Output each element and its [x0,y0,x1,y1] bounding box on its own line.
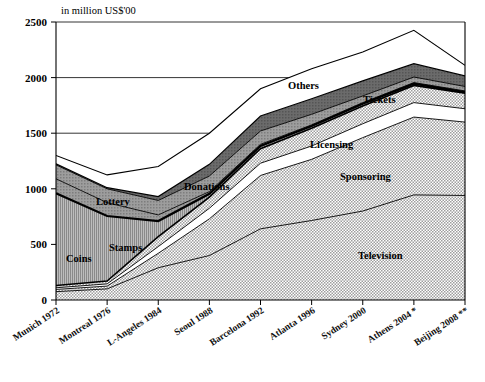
y-tick-label: 1500 [25,127,48,139]
series-label-stamps: Stamps [109,242,142,253]
series-label-television: Television [358,250,403,261]
y-tick-label: 1000 [25,183,48,195]
series-label-sponsoring: Sponsoring [340,171,392,182]
y-tick-label: 2000 [25,72,48,84]
series-label-donations: Donations [184,181,230,192]
y-tick-label: 0 [42,294,48,306]
olympic-revenue-area-chart: 05001000150020002500 Munich 1972Montreal… [0,0,485,382]
y-axis-title: in million US$'00 [61,5,136,16]
y-tick-label: 500 [31,238,48,250]
series-label-coins: Coins [66,253,92,264]
series-label-tickets: Tickets [363,94,395,105]
series-label-others: Others [288,80,319,91]
y-tick-label: 2500 [25,16,48,28]
series-label-lottery: Lottery [96,196,131,207]
series-label-licensing: Licensing [310,139,354,150]
chart-container: 05001000150020002500 Munich 1972Montreal… [0,0,485,382]
